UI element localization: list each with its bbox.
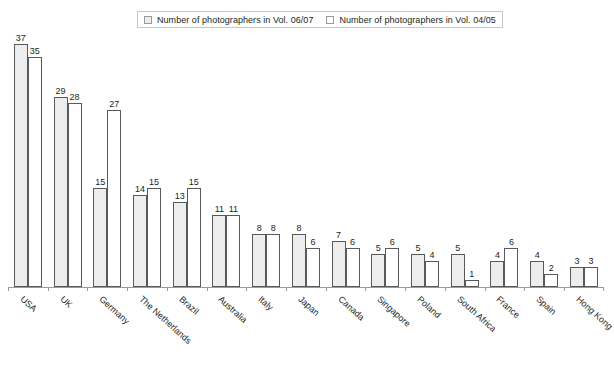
legend-swatch-icon bbox=[326, 16, 334, 24]
bar[interactable]: 3 bbox=[584, 267, 598, 287]
chart-legend: Number of photographers in Vol. 06/07 Nu… bbox=[137, 11, 503, 28]
bar-column: 5 bbox=[411, 36, 425, 287]
x-axis-label-cell: South Africa bbox=[445, 292, 485, 364]
bar-value-label: 35 bbox=[30, 46, 40, 56]
bar-value-label: 7 bbox=[336, 230, 341, 240]
x-axis-label-cell: UK bbox=[48, 292, 88, 364]
bar[interactable]: 13 bbox=[173, 202, 187, 287]
bar[interactable]: 5 bbox=[451, 254, 465, 287]
bar[interactable]: 6 bbox=[385, 248, 399, 287]
bar-value-label: 6 bbox=[350, 237, 355, 247]
x-axis-label-cell: Poland bbox=[405, 292, 445, 364]
bar-column: 14 bbox=[133, 36, 147, 287]
x-axis-label: France bbox=[495, 294, 523, 320]
bar-group: 2928 bbox=[48, 36, 88, 287]
bar-column: 13 bbox=[173, 36, 187, 287]
bar[interactable]: 14 bbox=[133, 195, 147, 287]
bar-group: 1315 bbox=[167, 36, 207, 287]
bar-column: 3 bbox=[570, 36, 584, 287]
bar-column: 27 bbox=[107, 36, 121, 287]
legend-item-label: Number of photographers in Vol. 06/07 bbox=[157, 15, 313, 25]
bar[interactable]: 6 bbox=[306, 248, 320, 287]
bar[interactable]: 5 bbox=[371, 254, 385, 287]
x-axis-label-cell: France bbox=[485, 292, 525, 364]
bar-value-label: 15 bbox=[149, 177, 159, 187]
bar[interactable]: 11 bbox=[226, 215, 240, 287]
bar-value-label: 8 bbox=[257, 223, 262, 233]
x-axis-labels: USAUKGermanyThe NetherlandsBrazilAustral… bbox=[8, 292, 604, 364]
x-axis-label: Italy bbox=[256, 294, 275, 312]
bar[interactable]: 7 bbox=[332, 241, 346, 287]
bar[interactable]: 28 bbox=[68, 103, 82, 287]
x-axis-label: UK bbox=[58, 294, 74, 310]
x-axis-label-cell: Japan bbox=[286, 292, 326, 364]
bar-value-label: 11 bbox=[229, 204, 238, 214]
x-axis-label-cell: Brazil bbox=[167, 292, 207, 364]
bar[interactable]: 1 bbox=[465, 280, 479, 287]
bar-value-label: 6 bbox=[310, 237, 315, 247]
bar-column: 8 bbox=[266, 36, 280, 287]
x-axis-label-cell: USA bbox=[8, 292, 48, 364]
bar[interactable]: 27 bbox=[107, 110, 121, 287]
bar[interactable]: 4 bbox=[490, 261, 504, 287]
bar-group: 86 bbox=[286, 36, 326, 287]
x-axis-label: Poland bbox=[415, 294, 443, 320]
bar-group: 1415 bbox=[127, 36, 167, 287]
bar-value-label: 4 bbox=[535, 250, 540, 260]
bar[interactable]: 2 bbox=[544, 274, 558, 287]
bar[interactable]: 15 bbox=[93, 188, 107, 287]
bar-column: 3 bbox=[584, 36, 598, 287]
legend-item-label: Number of photographers in Vol. 04/05 bbox=[339, 15, 495, 25]
bar-group: 1111 bbox=[207, 36, 247, 287]
x-axis-label-cell: Spain bbox=[524, 292, 564, 364]
bar-value-label: 6 bbox=[509, 237, 514, 247]
bar-group: 76 bbox=[326, 36, 366, 287]
bar-column: 4 bbox=[530, 36, 544, 287]
bar-column: 15 bbox=[187, 36, 201, 287]
plot-area: 3735292815271415131511118886765654514642… bbox=[0, 36, 612, 288]
x-axis-label-cell: Singapore bbox=[365, 292, 405, 364]
bar-value-label: 6 bbox=[390, 237, 395, 247]
bar-column: 5 bbox=[451, 36, 465, 287]
bar-column: 2 bbox=[544, 36, 558, 287]
bar-column: 6 bbox=[346, 36, 360, 287]
bar[interactable]: 15 bbox=[187, 188, 201, 287]
bar-value-label: 8 bbox=[271, 223, 276, 233]
bar[interactable]: 37 bbox=[14, 44, 28, 287]
bar-value-label: 27 bbox=[109, 99, 119, 109]
bar[interactable]: 35 bbox=[28, 57, 42, 287]
bar-group: 54 bbox=[405, 36, 445, 287]
bar-value-label: 4 bbox=[495, 250, 500, 260]
bar-column: 4 bbox=[490, 36, 504, 287]
legend-item-vol-06-07[interactable]: Number of photographers in Vol. 06/07 bbox=[144, 15, 313, 25]
bar-value-label: 5 bbox=[455, 243, 460, 253]
bar-value-label: 37 bbox=[16, 33, 26, 43]
bar-group: 42 bbox=[524, 36, 564, 287]
bar-column: 7 bbox=[332, 36, 346, 287]
x-axis-label-cell: Germany bbox=[87, 292, 127, 364]
bar-value-label: 29 bbox=[56, 86, 66, 96]
x-axis-label: USA bbox=[18, 294, 38, 314]
bar[interactable]: 29 bbox=[54, 97, 68, 287]
bar-group: 88 bbox=[246, 36, 286, 287]
bar[interactable]: 6 bbox=[346, 248, 360, 287]
bar[interactable]: 11 bbox=[212, 215, 226, 287]
x-axis-label: Hong Kong bbox=[574, 294, 614, 332]
bar-group: 1527 bbox=[87, 36, 127, 287]
legend-item-vol-04-05[interactable]: Number of photographers in Vol. 04/05 bbox=[326, 15, 495, 25]
bar[interactable]: 4 bbox=[425, 261, 439, 287]
bar[interactable]: 8 bbox=[292, 234, 306, 287]
bar-value-label: 8 bbox=[296, 223, 301, 233]
bar-column: 8 bbox=[292, 36, 306, 287]
bar[interactable]: 6 bbox=[504, 248, 518, 287]
bar[interactable]: 4 bbox=[530, 261, 544, 287]
bar[interactable]: 15 bbox=[147, 188, 161, 287]
x-axis-line bbox=[8, 287, 604, 288]
bar[interactable]: 5 bbox=[411, 254, 425, 287]
bar[interactable]: 8 bbox=[266, 234, 280, 287]
bar[interactable]: 3 bbox=[570, 267, 584, 287]
bar-value-label: 28 bbox=[70, 92, 80, 102]
bar[interactable]: 8 bbox=[252, 234, 266, 287]
x-axis-label: Australia bbox=[217, 294, 250, 325]
x-axis-label: Spain bbox=[535, 294, 559, 317]
